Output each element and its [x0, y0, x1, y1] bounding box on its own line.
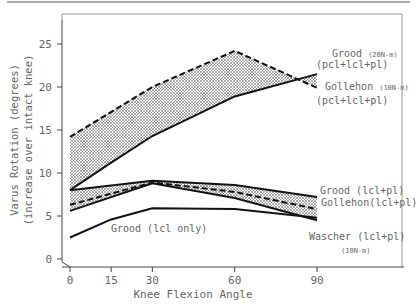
y-axis-sublabel: (increase over intact knee): [22, 55, 34, 226]
x-tick-label: 15: [105, 274, 118, 287]
varus-rotation-chart: 0510152025015306090Knee Flexion AngleVar…: [0, 0, 416, 307]
svg-text:Grood (20N-m): Grood (20N-m): [332, 48, 398, 59]
svg-text:(pcl+lcl+pl): (pcl+lcl+pl): [316, 59, 388, 70]
y-tick-label: 10: [39, 167, 52, 180]
y-tick-label: 0: [45, 253, 52, 266]
y-tick-label: 25: [39, 38, 52, 51]
svg-text:Grood (lcl only): Grood (lcl only): [111, 223, 207, 234]
svg-text:(10N-m): (10N-m): [341, 247, 371, 255]
svg-text:Gollehon (10N-m): Gollehon (10N-m): [325, 81, 409, 92]
x-tick-label: 60: [228, 274, 241, 287]
svg-text:Gollehon(lcl+pl): Gollehon(lcl+pl): [321, 197, 416, 208]
x-axis-label: Knee Flexion Angle: [133, 288, 252, 301]
x-tick-label: 90: [310, 274, 323, 287]
svg-text:Grood (lcl+pl): Grood (lcl+pl): [320, 185, 404, 196]
x-tick-label: 30: [146, 274, 159, 287]
y-tick-label: 15: [39, 124, 52, 137]
x-tick-label: 0: [67, 274, 74, 287]
y-axis-label: Varus Rotation (degrees): [8, 64, 20, 216]
y-tick-label: 20: [39, 81, 52, 94]
svg-text:(pcl+lcl+pl): (pcl+lcl+pl): [316, 95, 388, 106]
y-tick-label: 5: [45, 210, 52, 223]
svg-text:Wascher (lcl+pl): Wascher (lcl+pl): [309, 231, 405, 242]
